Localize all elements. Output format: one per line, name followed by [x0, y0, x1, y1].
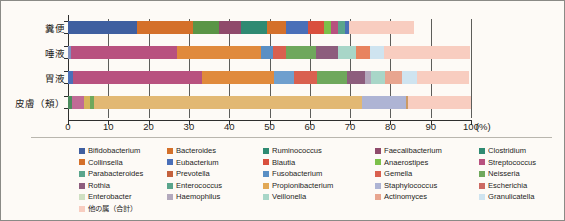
bar-segment — [417, 71, 470, 84]
legend-item[interactable]: Bacteroides — [167, 145, 263, 157]
legend-swatch — [167, 171, 173, 177]
bar-segment — [347, 71, 365, 84]
bar-segment — [71, 46, 177, 59]
legend-item[interactable]: Anaerostipes — [375, 157, 479, 169]
y-axis-label-feces: 糞便 — [45, 21, 65, 35]
bar-segment — [273, 46, 286, 59]
legend-item[interactable]: Rothia — [79, 180, 167, 192]
legend-label: Blautia — [272, 157, 295, 169]
legend-swatch — [479, 159, 485, 165]
legend-swatch — [79, 206, 85, 212]
legend-label: Faecalibacterium — [384, 145, 442, 157]
legend-item-empty — [375, 203, 479, 215]
bar-segment — [414, 21, 470, 34]
legend-item[interactable]: Enterococcus — [167, 180, 263, 192]
legend-label: Clostridium — [488, 145, 526, 157]
legend-item-empty — [263, 203, 375, 215]
legend-item[interactable]: Staphylococcus — [375, 180, 479, 192]
legend-label: Haemophilus — [176, 191, 220, 203]
x-tick-label-20: 20 — [143, 121, 154, 132]
bar-segment — [286, 21, 308, 34]
legend-label: Rothia — [88, 180, 110, 192]
stacked-bar-0 — [68, 21, 471, 34]
bar-segment — [385, 71, 402, 84]
legend-item[interactable]: Eubacterium — [167, 157, 263, 169]
legend-swatch — [167, 183, 173, 189]
y-axis-labels: 糞便 唾液 胃液 皮膚（頬） — [1, 19, 65, 118]
bar-segment — [219, 21, 241, 34]
legend-item[interactable]: Haemophilus — [167, 191, 263, 203]
legend-item[interactable]: Ruminococcus — [263, 145, 375, 157]
bar-row — [68, 96, 471, 109]
x-tick-label-40: 40 — [224, 121, 235, 132]
x-tick-label-30: 30 — [184, 121, 195, 132]
legend-item[interactable]: Parabacteroides — [79, 168, 167, 180]
legend-label: Escherichia — [488, 180, 527, 192]
bar-segment — [384, 46, 470, 59]
y-axis-label-saliva: 唾液 — [45, 46, 65, 60]
legend-item[interactable]: Fusobacterium — [263, 168, 375, 180]
bar-segment — [402, 71, 416, 84]
legend-item[interactable]: Collinsella — [79, 157, 167, 169]
legend-label: Veillonella — [272, 191, 306, 203]
legend-label: Ruminococcus — [272, 145, 322, 157]
bar-segment — [261, 46, 273, 59]
legend-label: Enterobacter — [88, 191, 131, 203]
bar-segment — [294, 71, 316, 84]
y-axis-label-skin: 皮膚（頬） — [15, 96, 65, 110]
bar-row — [68, 21, 471, 34]
legend-item[interactable]: Clostridium — [479, 145, 559, 157]
legend-label: 他の属（合計） — [88, 203, 137, 215]
bar-segment — [349, 21, 415, 34]
legend-item[interactable]: Neisseria — [479, 168, 559, 180]
legend-item[interactable]: Blautia — [263, 157, 375, 169]
legend-item[interactable]: Propionibacterium — [263, 180, 375, 192]
legend-item[interactable]: 他の属（合計） — [79, 203, 167, 215]
legend-item[interactable]: Veillonella — [263, 191, 375, 203]
legend-item[interactable]: Bifidobacterium — [79, 145, 167, 157]
legend-label: Neisseria — [488, 168, 520, 180]
legend-item[interactable]: Enterobacter — [79, 191, 167, 203]
legend-swatch — [263, 194, 269, 200]
legend-swatch — [375, 148, 381, 154]
legend-swatch — [167, 194, 173, 200]
bar-segment — [202, 71, 275, 84]
bar-segment — [469, 71, 471, 84]
legend-item[interactable]: Escherichia — [479, 180, 559, 192]
legend-swatch — [263, 183, 269, 189]
bar-segment — [193, 21, 219, 34]
chart-figure: 糞便 唾液 胃液 皮膚（頬） 0102030405060708090100(%)… — [0, 0, 565, 221]
legend-swatch — [79, 194, 85, 200]
legend-item[interactable]: Faecalibacterium — [375, 145, 479, 157]
bar-segment — [324, 21, 331, 34]
legend-swatch — [375, 171, 381, 177]
bar-segment — [68, 21, 137, 34]
legend-item[interactable]: Actinomyces — [375, 191, 479, 203]
legend-item[interactable]: Streptococcus — [479, 157, 559, 169]
bar-segment — [267, 21, 285, 34]
x-tick-label-10: 10 — [103, 121, 114, 132]
legend-swatch — [375, 183, 381, 189]
legend-label: Bifidobacterium — [88, 145, 140, 157]
x-tick-label-90: 90 — [425, 121, 436, 132]
legend-swatch — [375, 159, 381, 165]
bar-segment — [370, 46, 384, 59]
stacked-bar-1 — [68, 46, 471, 59]
bar-segment — [241, 21, 267, 34]
legend-swatch — [479, 171, 485, 177]
x-tick-label-50: 50 — [264, 121, 275, 132]
legend-item[interactable]: Prevotella — [167, 168, 263, 180]
legend-label: Gemella — [384, 168, 412, 180]
bar-segment — [362, 96, 406, 109]
legend-item[interactable]: Granulicatella — [479, 191, 559, 203]
legend-item[interactable]: Gemella — [375, 168, 479, 180]
legend-divider — [31, 137, 552, 138]
legend-swatch — [167, 159, 173, 165]
bar-segment — [338, 46, 356, 59]
stacked-bar-3 — [68, 96, 471, 109]
bar-segment — [316, 46, 338, 59]
x-axis-unit-label: (%) — [476, 121, 491, 132]
bar-segment — [317, 71, 347, 84]
legend-label: Anaerostipes — [384, 157, 428, 169]
legend-swatch — [479, 194, 485, 200]
